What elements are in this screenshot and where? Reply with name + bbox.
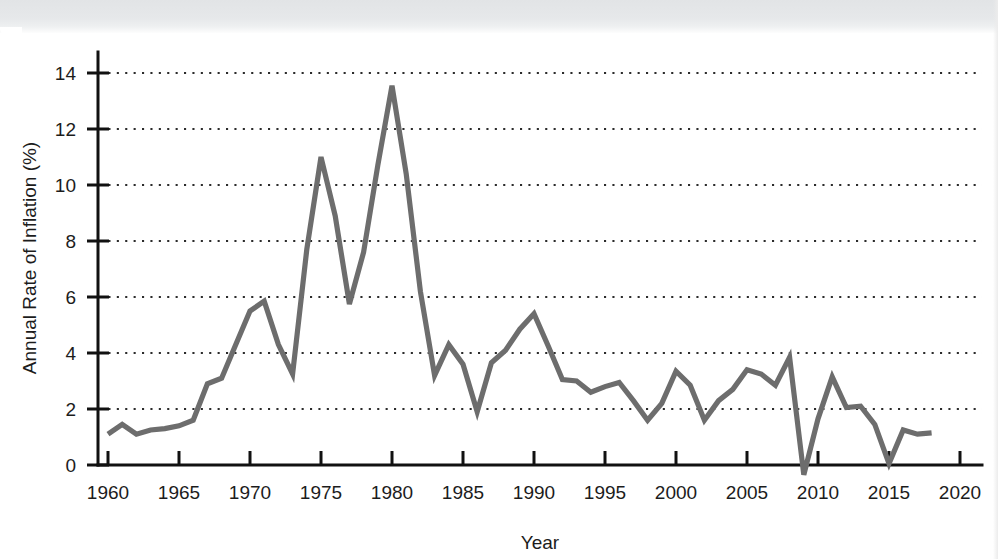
- x-tick-label: 2010: [797, 482, 839, 503]
- y-tick-label: 0: [65, 455, 76, 476]
- y-tick-label: 12: [55, 119, 76, 140]
- x-axis-title: Year: [521, 532, 560, 553]
- x-tick-label: 2020: [939, 482, 981, 503]
- x-tick-label: 1995: [584, 482, 626, 503]
- x-tick-label: 1965: [158, 482, 200, 503]
- y-tick-label: 6: [65, 287, 76, 308]
- x-tick-label: 2005: [726, 482, 768, 503]
- y-tick-label-group: 02468101214: [55, 63, 77, 476]
- inflation-series-line: [108, 86, 932, 475]
- y-tick-label: 2: [65, 399, 76, 420]
- x-tick-mark-group: [108, 451, 960, 465]
- x-tick-label: 1985: [442, 482, 484, 503]
- y-tick-label: 10: [55, 175, 76, 196]
- figure-page: 02468101214 1960196519701975198019851990…: [0, 0, 998, 559]
- y-tick-label: 8: [65, 231, 76, 252]
- y-axis-title: Annual Rate of Inflation (%): [19, 142, 40, 374]
- x-tick-label: 1975: [300, 482, 342, 503]
- x-tick-label-group: 1960196519701975198019851990199520002005…: [87, 482, 981, 503]
- y-tick-label: 14: [55, 63, 77, 84]
- x-tick-label: 1990: [513, 482, 555, 503]
- x-tick-label: 2015: [868, 482, 910, 503]
- line-chart: 02468101214 1960196519701975198019851990…: [0, 0, 998, 559]
- y-tick-label: 4: [65, 343, 76, 364]
- chart-svg: 02468101214 1960196519701975198019851990…: [0, 0, 998, 559]
- x-tick-label: 1980: [371, 482, 413, 503]
- x-tick-label: 1960: [87, 482, 129, 503]
- x-tick-label: 1970: [229, 482, 271, 503]
- x-tick-label: 2000: [655, 482, 697, 503]
